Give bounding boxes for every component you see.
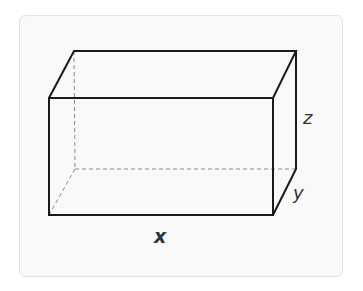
label-z: z	[302, 107, 313, 128]
top-face-edges	[49, 51, 296, 98]
label-y: y	[292, 182, 304, 203]
rectangular-prism-diagram: x z y	[0, 0, 363, 291]
label-x: x	[153, 225, 167, 247]
front-face	[49, 98, 273, 215]
hidden-edges	[49, 51, 296, 215]
visible-edges	[49, 51, 296, 215]
hidden-edge-back-left-vertical	[74, 51, 75, 169]
hidden-edge-bottom-left-depth	[49, 169, 75, 215]
